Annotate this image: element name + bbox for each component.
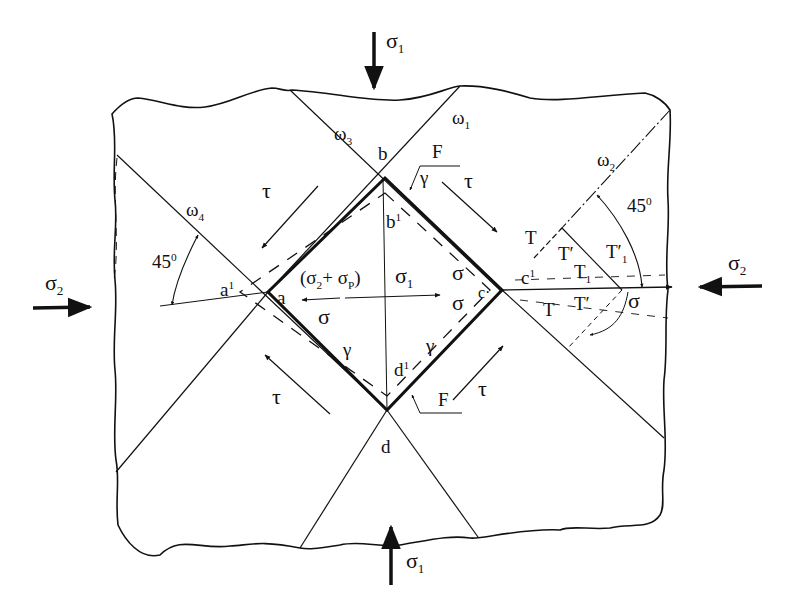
label-omega2: ω2 [597, 150, 615, 173]
label-angle-right: 450 [627, 196, 652, 215]
axis-horizontal-left [160, 292, 268, 306]
sigma-arc-right [590, 292, 628, 335]
label-T-lower: T [543, 300, 555, 319]
label-T-prime-lower: T′ [574, 294, 590, 313]
label-T-upper: T [525, 228, 537, 247]
label-omega1: ω1 [452, 108, 470, 131]
label-load-bottom: σ1 [406, 550, 424, 576]
label-omega4: ω4 [186, 200, 204, 223]
plane-lower-left-line [116, 292, 268, 472]
load-arrow-right[interactable] [700, 286, 762, 287]
arrow-sigma-sum [302, 298, 340, 300]
F-leader-top [410, 166, 460, 190]
label-F-bottom: F [438, 390, 449, 409]
label-T1-prime: T′1 [606, 242, 627, 265]
label-T-prime-upper: T′ [558, 244, 574, 263]
label-sigma-right-construction: σ [628, 290, 640, 312]
label-gamma-bottom-right: γ [426, 336, 434, 355]
label-sigma-left-lower: σ [318, 306, 330, 328]
label-omega3: ω3 [334, 124, 352, 147]
label-sum-stress: (σ2+ σP) [300, 268, 361, 291]
plane-omega1-line [270, 86, 460, 290]
label-tau-top-left: τ [262, 180, 271, 202]
label-vertex-d: d [381, 437, 391, 456]
label-T1: T1 [574, 262, 591, 285]
label-F-top: F [432, 142, 443, 161]
plane-lower-right-line [300, 410, 387, 548]
label-sigma-right-upper: σ [452, 262, 464, 284]
label-gamma-top: γ [420, 168, 428, 187]
label-load-right: σ2 [728, 252, 746, 278]
label-vertex-c-prime: c1 [521, 268, 535, 287]
label-tau-bottom-left: τ [272, 386, 281, 408]
label-load-top: σ1 [386, 30, 404, 56]
label-vertex-c-dot: c· [478, 285, 490, 301]
plane-d-right-line [387, 410, 478, 537]
label-tau-bottom-right: τ [478, 378, 487, 400]
label-tau-top-right: τ [464, 170, 473, 192]
label-load-left: σ2 [45, 272, 63, 298]
load-arrow-left[interactable] [33, 307, 90, 308]
label-vertex-a-prime: a1 [220, 280, 234, 299]
arrow-sigma1-inner [345, 295, 440, 298]
label-angle-left: 450 [152, 252, 177, 271]
specimen-boundary [112, 86, 670, 556]
label-sigma1-inner: σ1 [395, 265, 413, 291]
label-vertex-a: a [277, 288, 285, 307]
stress-diagram [0, 0, 795, 612]
label-vertex-b: b [378, 144, 388, 163]
label-vertex-b-prime: b1 [386, 212, 401, 231]
label-vertex-d-prime: d1 [394, 360, 409, 379]
label-sigma-right-lower: σ [452, 292, 464, 314]
label-gamma-bottom-left: γ [343, 340, 351, 359]
